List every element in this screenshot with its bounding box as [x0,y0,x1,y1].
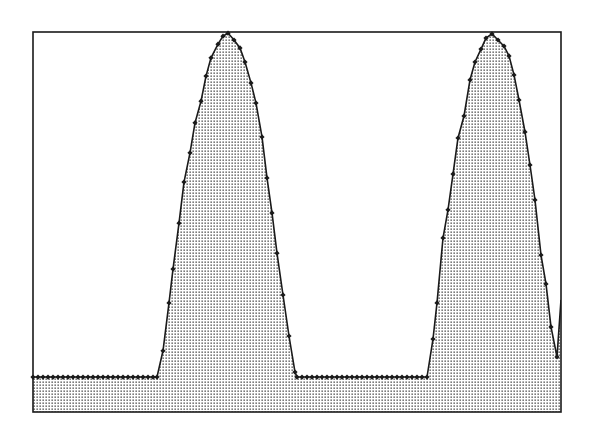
area-chart [0,0,594,429]
